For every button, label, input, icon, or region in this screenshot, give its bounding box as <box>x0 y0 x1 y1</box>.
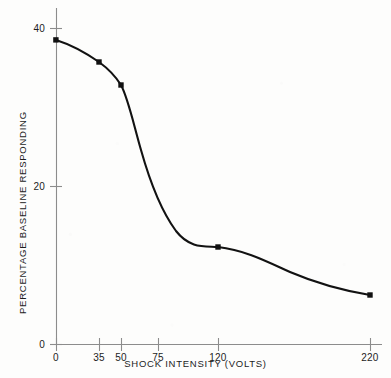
data-point-0v <box>53 37 58 42</box>
y-tick-label-0: 0 <box>20 339 45 350</box>
data-point-35v <box>96 59 101 64</box>
y-axis-title: PERCENTAGE BASELINE RESPONDING <box>17 111 28 314</box>
chart-plot-area <box>0 0 391 378</box>
data-point-50v <box>118 82 123 87</box>
y-tick-label-40: 40 <box>20 23 45 34</box>
data-point-120v <box>215 244 220 249</box>
figure-container: 40 20 0 0 35 50 75 120 220 SHOCK INTENSI… <box>0 0 391 378</box>
data-point-markers <box>53 37 372 297</box>
x-axis-title: SHOCK INTENSITY (VOLTS) <box>0 358 391 369</box>
data-curve <box>56 40 370 295</box>
data-point-220v <box>367 292 372 297</box>
